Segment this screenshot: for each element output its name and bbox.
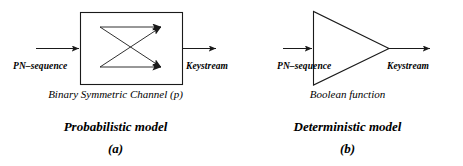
panel-letter-b: (b) xyxy=(232,142,463,155)
bsc-box xyxy=(81,13,183,85)
output-label-b: Keystream xyxy=(387,62,429,72)
sub-caption-a: Binary Symmetric Channel (p) xyxy=(0,89,231,100)
figure-root: PN–sequence Keystream Binary Symmetric C… xyxy=(0,0,463,166)
sub-caption-b: Boolean function xyxy=(232,89,463,100)
panel-letter-a: (a) xyxy=(0,142,231,155)
output-label-a: Keystream xyxy=(186,62,228,72)
panel-probabilistic-model: PN–sequence Keystream Binary Symmetric C… xyxy=(0,0,231,166)
input-label-a: PN–sequence xyxy=(13,62,67,72)
panel-deterministic-model: PN–sequence Keystream Boolean function D… xyxy=(232,0,463,166)
input-label-b: PN–sequence xyxy=(277,62,331,72)
model-caption-a: Probabilistic model xyxy=(0,120,231,133)
model-caption-b: Deterministic model xyxy=(232,120,463,133)
boolean-function-triangle xyxy=(314,12,390,86)
